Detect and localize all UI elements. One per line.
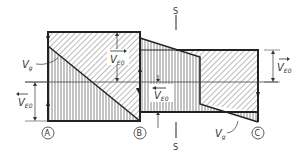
ve0-left-label: VE0	[18, 97, 33, 109]
svg-text:C: C	[255, 129, 261, 138]
section-label-bottom: S	[173, 143, 178, 152]
section-label-top: S	[173, 7, 178, 16]
svg-text:A: A	[45, 129, 51, 138]
svg-text:B: B	[137, 129, 143, 138]
vg-right-label: Vg	[215, 128, 226, 141]
left-span	[48, 32, 140, 121]
shear-diagram: S S VE0 Vg VE0 VE0 VE0 Vg A	[0, 0, 303, 156]
vg-left-label: Vg	[22, 59, 33, 72]
ve0-right-label: VE0	[277, 62, 292, 74]
node-c: C	[252, 127, 264, 139]
node-a: A	[42, 127, 54, 139]
node-b: B	[134, 127, 146, 139]
